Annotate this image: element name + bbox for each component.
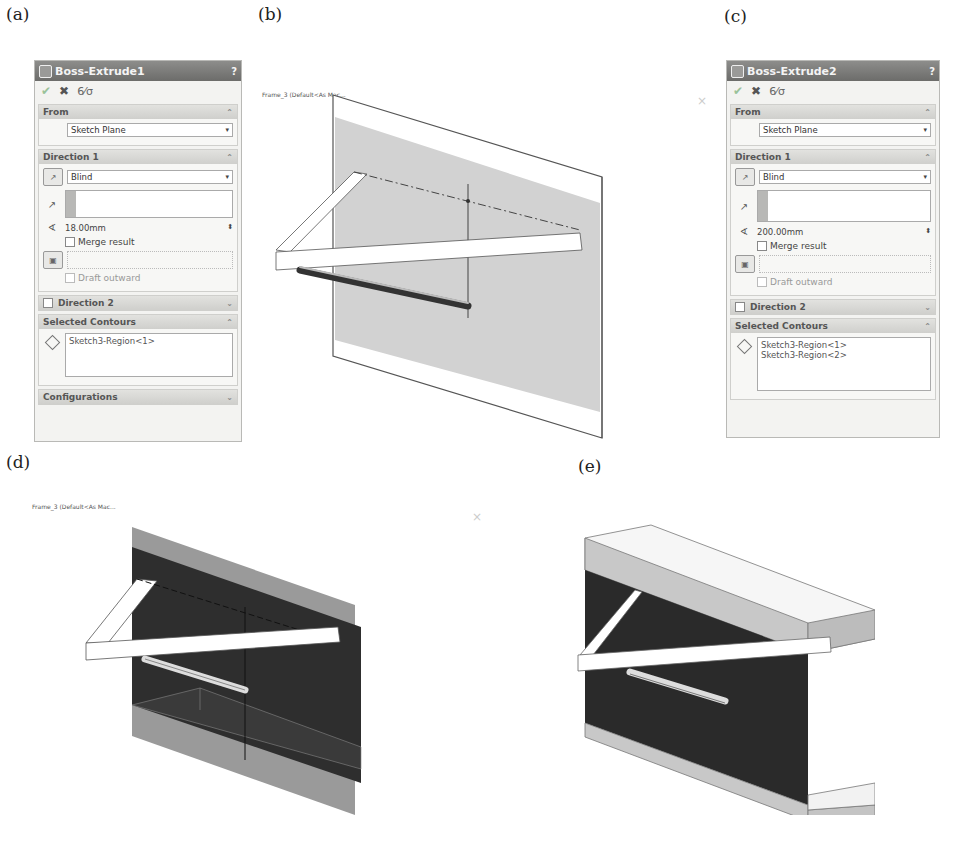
spin-icon[interactable]: ⬍ (925, 227, 931, 237)
draft-outward-checkbox[interactable]: Draft outward (757, 277, 931, 287)
direction2-checkbox[interactable] (735, 302, 745, 312)
merge-result-checkbox[interactable]: Merge result (757, 241, 931, 251)
pm-title-bar: Boss-Extrude1 ? (35, 61, 241, 81)
selected-contours-list[interactable]: Sketch3-Region<1> (65, 333, 233, 377)
draft-toggle-button[interactable]: ▣ (735, 255, 755, 273)
group-direction1: Direction 1⌃ ↗ Blind▾ ↗ ∢ 200.00mm⬍ Merg… (730, 149, 936, 296)
collapse-icon[interactable]: ⌃ (924, 108, 931, 117)
collapse-icon[interactable]: ⌃ (924, 153, 931, 162)
detailed-preview-button[interactable]: 6⁄σ (769, 85, 785, 98)
contour-selection-icon (737, 339, 753, 355)
dropdown-arrow-icon: ▾ (923, 126, 927, 134)
group-selected-contours: Selected Contours⌃ Sketch3-Region<1> Ske… (730, 318, 936, 400)
pm-title: Boss-Extrude1 (55, 65, 145, 78)
draft-angle-input[interactable] (67, 251, 233, 269)
detailed-preview-button[interactable]: 6⁄σ (77, 85, 93, 98)
group-direction2: Direction 2⌄ (730, 299, 936, 315)
direction-arrow-icon: ↗ (735, 201, 753, 212)
draft-toggle-button[interactable]: ▣ (43, 251, 63, 269)
spin-icon[interactable]: ⬍ (227, 223, 233, 233)
group-selected-contours-header[interactable]: Selected Contours⌃ (39, 315, 237, 329)
extrude-feature-icon (39, 65, 52, 78)
expand-icon[interactable]: ⌄ (226, 393, 233, 402)
group-configurations-header[interactable]: Configurations⌄ (39, 390, 237, 404)
group-direction2-header[interactable]: Direction 2⌄ (39, 296, 237, 310)
figure-label-c: (c) (724, 6, 747, 26)
depth-icon: ∢ (43, 222, 61, 233)
collapse-icon[interactable]: ⌃ (226, 318, 233, 327)
depth-icon: ∢ (735, 226, 753, 237)
figure-label-e: (e) (578, 456, 601, 476)
group-from-header[interactable]: From⌃ (731, 105, 935, 119)
viewport-b-sketch-plane-preview[interactable] (250, 60, 630, 440)
cancel-button[interactable]: ✖ (59, 84, 69, 98)
group-direction2-header[interactable]: Direction 2⌄ (731, 300, 935, 314)
expand-icon[interactable]: ⌄ (924, 303, 931, 312)
pm-title-bar: Boss-Extrude2 ? (727, 61, 939, 81)
group-configurations: Configurations⌄ (38, 389, 238, 405)
group-direction1-header[interactable]: Direction 1⌃ (39, 150, 237, 164)
dropdown-arrow-icon: ▾ (225, 173, 229, 181)
group-direction2: Direction 2⌄ (38, 295, 238, 311)
dropdown-arrow-icon: ▾ (225, 126, 229, 134)
direction-of-extrusion-field[interactable] (65, 190, 233, 218)
figure-label-a: (a) (6, 4, 29, 24)
collapse-icon[interactable]: ⌃ (924, 322, 931, 331)
viewport-d-extrude-preview[interactable] (80, 525, 380, 815)
reverse-direction-button[interactable]: ↗ (735, 168, 755, 186)
end-condition-select[interactable]: Blind▾ (759, 170, 931, 184)
depth-input[interactable]: 200.00mm⬍ (757, 227, 931, 237)
figure-label-d: (d) (6, 452, 30, 472)
pm-action-bar: ✔ ✖ 6⁄σ (727, 81, 939, 101)
close-icon[interactable]: × (472, 510, 482, 524)
help-icon[interactable]: ? (929, 66, 935, 77)
pm-action-bar: ✔ ✖ 6⁄σ (35, 81, 241, 101)
list-item[interactable]: Sketch3-Region<1> (69, 336, 229, 346)
viewport-e-final-part[interactable] (575, 515, 875, 815)
contour-selection-icon (45, 335, 61, 351)
group-from: From⌃ Sketch Plane▾ (38, 104, 238, 146)
group-selected-contours-header[interactable]: Selected Contours⌃ (731, 319, 935, 333)
dropdown-arrow-icon: ▾ (923, 173, 927, 181)
from-select[interactable]: Sketch Plane▾ (759, 123, 931, 137)
selected-contours-list[interactable]: Sketch3-Region<1> Sketch3-Region<2> (757, 337, 931, 391)
list-item[interactable]: Sketch3-Region<2> (761, 350, 927, 360)
depth-input[interactable]: 18.00mm⬍ (65, 223, 233, 233)
draft-outward-checkbox[interactable]: Draft outward (65, 273, 233, 283)
list-item[interactable]: Sketch3-Region<1> (761, 340, 927, 350)
merge-result-checkbox[interactable]: Merge result (65, 237, 233, 247)
group-selected-contours: Selected Contours⌃ Sketch3-Region<1> (38, 314, 238, 386)
figure-label-b: (b) (258, 4, 282, 24)
group-direction1-header[interactable]: Direction 1⌃ (731, 150, 935, 164)
cancel-button[interactable]: ✖ (751, 84, 761, 98)
help-icon[interactable]: ? (231, 66, 237, 77)
end-condition-select[interactable]: Blind▾ (67, 170, 233, 184)
collapse-icon[interactable]: ⌃ (226, 153, 233, 162)
extrude-feature-icon (731, 65, 744, 78)
ok-button[interactable]: ✔ (41, 84, 51, 98)
direction-arrow-icon: ↗ (43, 199, 61, 210)
property-manager-boss-extrude1: Boss-Extrude1 ? ✔ ✖ 6⁄σ From⌃ Sketch Pla… (34, 60, 242, 442)
expand-icon[interactable]: ⌄ (226, 299, 233, 308)
direction-of-extrusion-field[interactable] (757, 190, 931, 222)
group-from-header[interactable]: From⌃ (39, 105, 237, 119)
from-select[interactable]: Sketch Plane▾ (67, 123, 233, 137)
ok-button[interactable]: ✔ (733, 84, 743, 98)
direction2-checkbox[interactable] (43, 298, 53, 308)
group-from: From⌃ Sketch Plane▾ (730, 104, 936, 146)
property-manager-boss-extrude2: Boss-Extrude2 ? ✔ ✖ 6⁄σ From⌃ Sketch Pla… (726, 60, 940, 438)
feature-tree-flyout-label[interactable]: Frame_3 (Default<As Mac... (32, 503, 116, 510)
close-icon[interactable]: × (697, 94, 707, 108)
collapse-icon[interactable]: ⌃ (226, 108, 233, 117)
group-direction1: Direction 1⌃ ↗ Blind▾ ↗ ∢ 18.00mm⬍ Merge… (38, 149, 238, 292)
draft-angle-input[interactable] (759, 255, 931, 273)
reverse-direction-button[interactable]: ↗ (43, 168, 63, 186)
pm-title: Boss-Extrude2 (747, 65, 837, 78)
